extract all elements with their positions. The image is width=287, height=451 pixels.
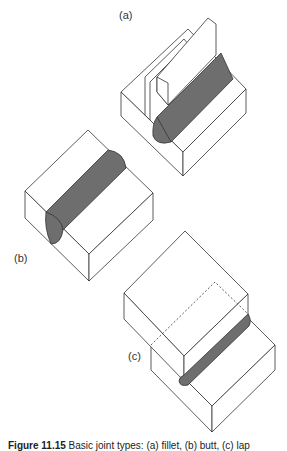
label-c: (c) bbox=[128, 350, 141, 362]
label-b: (b) bbox=[14, 252, 27, 264]
label-a: (a) bbox=[119, 9, 132, 21]
figure-caption: Figure 11.15 Basic joint types: (a) fill… bbox=[8, 440, 250, 451]
caption-text: Basic joint types: (a) fillet, (b) butt,… bbox=[69, 440, 250, 451]
caption-number: Figure 11.15 bbox=[8, 440, 66, 451]
joint-a bbox=[121, 18, 246, 176]
joint-c bbox=[124, 231, 275, 432]
joint-b bbox=[25, 130, 153, 281]
